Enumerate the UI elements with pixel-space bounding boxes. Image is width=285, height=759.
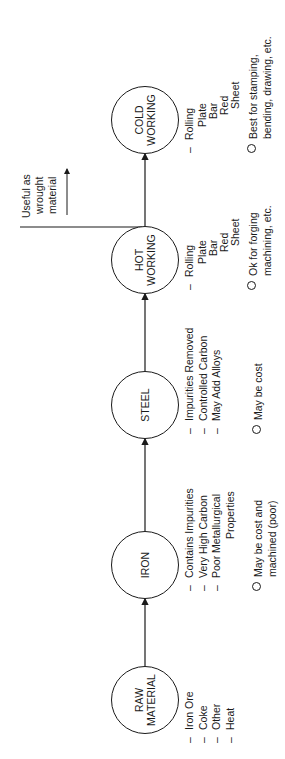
annotation-line: Useful as <box>20 174 33 218</box>
node-steel: STEEL <box>111 371 179 439</box>
iron-properties: –Contains Impurities –Very High Carbon –… <box>183 488 237 591</box>
list-subitem: Plate <box>197 240 208 264</box>
list-item: May Add Alloys <box>210 350 224 421</box>
list-subitem: Sheet <box>230 82 241 109</box>
node-hot-working: HOT WORKING <box>111 226 179 294</box>
node-raw-material: RAW MATERIAL <box>111 666 179 734</box>
list-subitem: Sheet <box>230 219 241 246</box>
node-label: MATERIAL <box>145 674 157 726</box>
hot-working-forms: –Rolling Plate Bar Red Sheet <box>183 219 241 290</box>
node-cold-working: COLD WORKING <box>111 86 179 154</box>
dash-marker: – <box>183 277 197 290</box>
list-item: Very High Carbon <box>197 495 211 578</box>
hot-working-note: Ok for forging machining, etc. <box>247 205 274 290</box>
list-subitem: Plate <box>197 103 208 127</box>
dash-marker: – <box>197 730 211 743</box>
node-label: IRON <box>139 552 151 578</box>
list-subitem: Bar <box>208 240 219 256</box>
node-label: WORKING <box>145 234 157 285</box>
note-text: Best for stamping, <box>247 54 261 139</box>
note-text: machined (poor) <box>266 501 280 577</box>
note-text: May be cost <box>252 363 266 420</box>
note-text: May be cost and <box>252 500 266 577</box>
node-iron: IRON <box>111 531 179 599</box>
dash-marker: – <box>210 421 224 434</box>
circle-bullet-icon <box>247 281 256 290</box>
node-label: STEEL <box>139 388 151 421</box>
circle-bullet-icon <box>252 582 261 591</box>
dash-marker: – <box>183 140 197 153</box>
node-label: WORKING <box>145 94 157 145</box>
dash-marker: – <box>224 730 238 743</box>
list-item: Rolling <box>183 245 197 277</box>
list-item: Impurities Removed <box>183 328 197 421</box>
cold-working-note: Best for stamping, bending, drawing, etc… <box>247 36 274 153</box>
list-subitem: Bar <box>208 103 219 119</box>
note-text: machining, etc. <box>261 205 275 276</box>
circle-bullet-icon <box>252 425 261 434</box>
node-label: COLD <box>133 105 145 134</box>
list-item: Contains Impurities <box>183 488 197 578</box>
list-item: Poor Metallurgical <box>210 494 224 578</box>
dash-marker: – <box>210 578 224 591</box>
circle-bullet-icon <box>247 144 256 153</box>
list-item: Coke <box>197 705 211 730</box>
list-item: Rolling <box>183 108 197 140</box>
dash-marker: – <box>183 421 197 434</box>
list-subitem: Red <box>219 233 230 252</box>
list-item: Controlled Carbon <box>197 336 211 421</box>
list-subitem: Red <box>219 96 230 115</box>
dash-marker: – <box>183 730 197 743</box>
annotation-line: material <box>46 174 59 218</box>
dash-marker: – <box>197 578 211 591</box>
node-label: RAW <box>133 688 145 712</box>
cold-working-forms: –Rolling Plate Bar Red Sheet <box>183 82 241 153</box>
note-text: bending, drawing, etc. <box>261 36 275 139</box>
raw-material-inputs: –Iron Ore –Coke –Other –Heat <box>183 691 237 743</box>
list-item: Other <box>210 704 224 730</box>
dash-marker: – <box>183 578 197 591</box>
list-item: Iron Ore <box>183 691 197 730</box>
iron-note: May be cost and machined (poor) <box>252 500 279 591</box>
steel-properties: –Impurities Removed –Controlled Carbon –… <box>183 328 224 434</box>
node-label: HOT <box>133 249 145 271</box>
note-text: Ok for forging <box>247 212 261 276</box>
list-item: Heat <box>224 708 238 730</box>
steel-note: May be cost <box>252 363 266 434</box>
process-flow-diagram: RAW MATERIAL IRON STEEL HOT WORKING COLD… <box>0 0 285 759</box>
annotation-line: wrought <box>33 174 46 218</box>
dash-marker: – <box>197 421 211 434</box>
wrought-annotation: Useful as wrought material <box>20 174 59 218</box>
list-item-continuation: Properties <box>224 491 238 539</box>
dash-marker: – <box>210 730 224 743</box>
